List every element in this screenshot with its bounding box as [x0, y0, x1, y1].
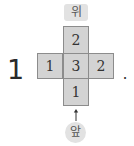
cell-bottom: 1	[63, 78, 89, 106]
arrow-up-icon	[73, 109, 79, 121]
problem-number: 1	[7, 55, 23, 85]
period-dot: .	[121, 68, 129, 80]
cell-top: 2	[63, 26, 89, 54]
cell-center: 3	[63, 53, 89, 79]
cell-left: 1	[37, 53, 63, 79]
front-view-label: 앞	[65, 122, 86, 143]
top-view-label: 위	[64, 4, 88, 21]
cell-right: 2	[88, 53, 114, 79]
